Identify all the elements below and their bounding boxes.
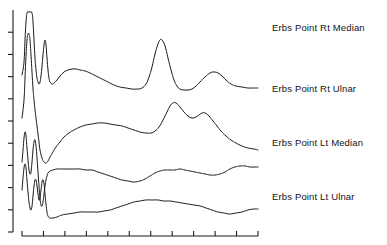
waveform-trace-2 bbox=[22, 132, 258, 207]
trace-label-lt-median: Erbs Point Lt Median bbox=[272, 137, 363, 148]
traces-group bbox=[22, 12, 258, 219]
trace-label-rt-ulnar: Erbs Point Rt Ulnar bbox=[272, 83, 356, 94]
waveform-figure: Erbs Point Rt Median Erbs Point Rt Ulnar… bbox=[0, 0, 387, 245]
trace-label-rt-median: Erbs Point Rt Median bbox=[272, 22, 365, 33]
trace-label-lt-ulnar: Erbs Point Lt Ulnar bbox=[272, 191, 355, 202]
waveform-trace-1 bbox=[22, 33, 258, 163]
waveform-trace-3 bbox=[22, 164, 258, 218]
waveform-plot-area bbox=[0, 0, 387, 245]
waveform-trace-0 bbox=[22, 12, 258, 90]
